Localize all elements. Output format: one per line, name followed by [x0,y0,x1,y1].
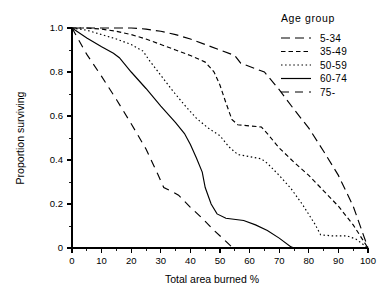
y-axis-tick-labels: 00.20.40.60.81.0 [50,22,63,253]
x-tick-label: 50 [215,255,226,266]
survival-curve-chart: 00.20.40.60.81.0 Proportion surviving 01… [0,0,389,293]
legend-entries: 5-3435-4950-5960-7475- [281,33,347,98]
x-tick-label: 30 [156,255,167,266]
x-tick-label: 10 [96,255,107,266]
y-tick-label: 0.4 [50,154,63,165]
x-tick-label: 60 [244,255,255,266]
series-line-75 [72,28,233,248]
legend-label-75: 75- [320,87,335,98]
y-axis: 00.20.40.60.81.0 Proportion surviving [14,22,72,253]
x-axis-title: Total area burned % [165,273,259,285]
legend-label-50-59: 50-59 [320,60,347,71]
legend-label-60-74: 60-74 [320,73,347,84]
y-tick-label: 1.0 [50,22,63,33]
chart-figure: 00.20.40.60.81.0 Proportion surviving 01… [0,0,389,293]
x-tick-label: 20 [126,255,137,266]
x-tick-label: 40 [185,255,196,266]
x-tick-label: 80 [304,255,315,266]
x-axis-tick-labels: 0102030405060708090100 [69,255,376,266]
y-axis-title: Proportion surviving [14,91,26,184]
chart-legend: Age group 5-3435-4950-5960-7475- [281,12,347,98]
x-tick-label: 0 [69,255,74,266]
y-tick-label: 0.6 [50,110,63,121]
y-tick-label: 0 [58,242,63,253]
x-tick-label: 100 [360,255,376,266]
y-tick-label: 0.8 [50,66,63,77]
x-axis: 0102030405060708090100 Total area burned… [69,248,376,285]
x-tick-label: 90 [333,255,344,266]
legend-label-5-34: 5-34 [320,33,341,44]
legend-label-35-49: 35-49 [320,46,347,57]
x-tick-label: 70 [274,255,285,266]
legend-title: Age group [281,12,335,24]
y-tick-label: 0.2 [50,198,63,209]
